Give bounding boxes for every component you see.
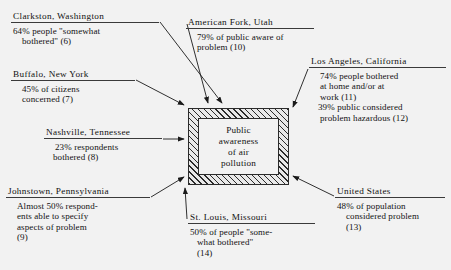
central-concept-line-1: Public [226, 125, 251, 136]
callout-american-fork-heading: American Fork, Utah [186, 17, 314, 28]
callout-american-fork: American Fork, Utah 79% of public aware … [186, 17, 314, 53]
central-concept-box: Public awareness of air pollution [188, 108, 289, 185]
callout-united-states-line-1: 48% of population [337, 201, 445, 212]
callout-st-louis: St. Louis, Missouri 50% of people "some-… [188, 212, 315, 258]
callout-nashville: Nashville, Tennessee 23% respondents bot… [44, 127, 162, 163]
callout-clarkston-detail: 64% people "somewhat bothered" (6) [11, 26, 159, 47]
callout-johnstown-line-4: (9) [8, 232, 150, 243]
callout-united-states-rule [335, 197, 445, 198]
callout-los-angeles-heading: Los Angeles, California [309, 56, 446, 67]
central-concept-line-3: of air [228, 147, 249, 158]
callout-los-angeles-line-5: problem hazardous (12) [311, 113, 446, 124]
callout-los-angeles-line-2: at home and/or at [311, 81, 446, 92]
callout-nashville-line-2: bothered (8) [46, 152, 162, 163]
callout-nashville-line-1: 23% respondents [46, 142, 162, 153]
callout-los-angeles-detail: 74% people bothered at home and/or at wo… [309, 71, 446, 124]
callout-st-louis-line-3: (14) [190, 248, 315, 259]
callout-johnstown-detail: Almost 50% respond- ents able to specify… [6, 201, 150, 243]
callout-buffalo-line-1: 45% of citizens [13, 84, 135, 95]
arrow-united-states [293, 176, 334, 196]
influence-diagram: Clarkston, Washington 64% people "somewh… [0, 0, 451, 270]
callout-johnstown-line-3: aspects of problem [8, 222, 150, 233]
callout-clarkston-rule [11, 22, 159, 23]
callout-johnstown-rule [6, 197, 150, 198]
callout-buffalo-heading: Buffalo, New York [11, 69, 135, 80]
callout-st-louis-detail: 50% of people "some- what bothered" (14) [188, 227, 315, 259]
callout-clarkston: Clarkston, Washington 64% people "somewh… [11, 11, 159, 47]
callout-united-states-detail: 48% of population considered problem (13… [335, 201, 445, 233]
callout-nashville-detail: 23% respondents bothered (8) [44, 142, 162, 163]
callout-nashville-heading: Nashville, Tennessee [44, 127, 162, 138]
central-concept-line-2: awareness [219, 136, 259, 147]
callout-american-fork-line-2: problem (10) [188, 42, 314, 53]
callout-st-louis-line-1: 50% of people "some- [190, 227, 315, 238]
callout-los-angeles-line-1: 74% people bothered [311, 71, 446, 82]
callout-buffalo-line-2: concerned (7) [13, 94, 135, 105]
callout-american-fork-rule [186, 28, 314, 29]
central-concept-inner: Public awareness of air pollution [198, 118, 279, 175]
callout-american-fork-detail: 79% of public aware of problem (10) [186, 32, 314, 53]
callout-united-states-line-3: (13) [337, 222, 445, 233]
callout-united-states-heading: United States [335, 186, 445, 197]
callout-st-louis-heading: St. Louis, Missouri [188, 212, 315, 223]
callout-american-fork-line-1: 79% of public aware of [188, 32, 314, 43]
callout-clarkston-heading: Clarkston, Washington [11, 11, 159, 22]
callout-united-states-line-2: considered problem [337, 211, 445, 222]
callout-los-angeles-rule [309, 67, 446, 68]
callout-buffalo: Buffalo, New York 45% of citizens concer… [11, 69, 135, 105]
callout-los-angeles-line-4: 39% public considered [311, 102, 446, 113]
callout-st-louis-line-2: what bothered" [190, 237, 315, 248]
callout-clarkston-line-2: bothered" (6) [13, 36, 159, 47]
arrow-johnstown [151, 177, 184, 197]
arrow-buffalo [136, 80, 184, 105]
callout-los-angeles-line-3: work (11) [311, 92, 446, 103]
callout-buffalo-detail: 45% of citizens concerned (7) [11, 84, 135, 105]
arrow-st-louis [185, 188, 187, 219]
callout-united-states: United States 48% of population consider… [335, 186, 445, 232]
callout-los-angeles: Los Angeles, California 74% people bothe… [309, 56, 446, 124]
callout-buffalo-rule [11, 80, 135, 81]
callout-johnstown: Johnstown, Pennsylvania Almost 50% respo… [6, 186, 150, 243]
callout-johnstown-line-1: Almost 50% respond- [8, 201, 150, 212]
callout-clarkston-line-1: 64% people "somewhat [13, 26, 159, 37]
callout-nashville-rule [44, 138, 162, 139]
arrow-los-angeles [293, 69, 308, 107]
central-concept-line-4: pollution [221, 158, 256, 169]
callout-johnstown-line-2: ents able to specify [8, 211, 150, 222]
callout-johnstown-heading: Johnstown, Pennsylvania [6, 186, 150, 197]
callout-st-louis-rule [188, 223, 315, 224]
